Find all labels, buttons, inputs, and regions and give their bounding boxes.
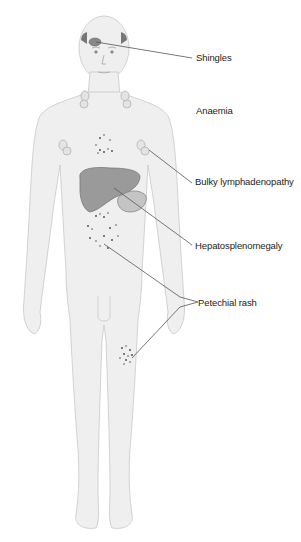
label-shingles: Shingles xyxy=(196,52,232,63)
body-diagram: Shingles Anaemia Bulky lymphadenopathy H… xyxy=(0,0,301,542)
label-petechial-rash: Petechial rash xyxy=(198,297,257,308)
label-anaemia: Anaemia xyxy=(196,105,233,116)
label-hepatosplenomegaly: Hepatosplenomegaly xyxy=(195,240,282,251)
shingles-lesion xyxy=(89,38,101,46)
body-silhouette xyxy=(23,16,184,528)
label-bulky-lymphadenopathy: Bulky lymphadenopathy xyxy=(195,176,294,187)
